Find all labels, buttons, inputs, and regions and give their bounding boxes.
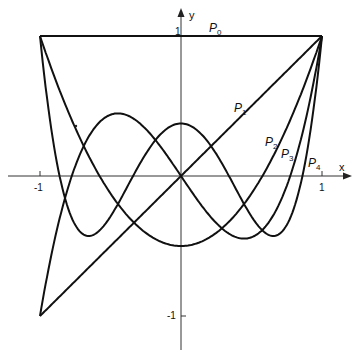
series-label-p1: P1: [234, 102, 246, 117]
legendre-chart: y x 1 -1 -1 1 P0 P1 P2 P3 P4: [0, 0, 358, 353]
series-label-p0: P0: [209, 22, 221, 37]
series-label-p2: P2: [265, 136, 277, 151]
x-axis-arrow-icon: [343, 173, 352, 180]
x-tick-label-pos: 1: [319, 183, 325, 193]
series-label-p3: P3: [281, 148, 293, 163]
x-axis-label: x: [339, 162, 345, 173]
y-axis-label: y: [189, 10, 195, 21]
y-tick-label-pos: 1: [175, 27, 181, 37]
series-label-p4: P4: [308, 157, 320, 172]
y-axis-arrow-icon: [178, 8, 185, 17]
plot-area: [0, 0, 358, 353]
y-tick-label-neg: -1: [167, 311, 176, 321]
stray-dot: [75, 125, 77, 127]
x-tick-label-neg: -1: [34, 183, 43, 193]
